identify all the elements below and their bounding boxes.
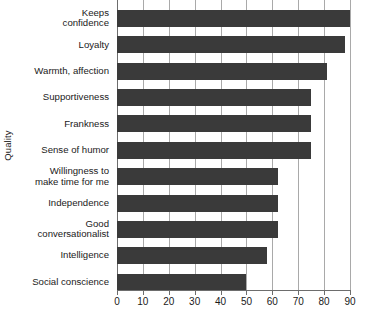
bar: [117, 10, 350, 27]
bar: [117, 274, 246, 291]
bar: [117, 221, 278, 238]
x-tick-mark-30: [195, 290, 196, 295]
x-tick-mark-0: [117, 290, 118, 295]
bar: [117, 247, 267, 264]
category-label: Loyalty: [14, 40, 109, 51]
category-label-line: Independence: [48, 198, 109, 209]
category-label-line: Sense of humor: [41, 145, 109, 156]
x-tick-mark-70: [298, 290, 299, 295]
gridline-90: [350, 0, 351, 290]
bar: [117, 36, 345, 53]
category-label-column: KeepsconfidenceLoyaltyWarmth, affectionS…: [14, 0, 113, 290]
x-tick-mark-60: [272, 290, 273, 295]
category-label: Social conscience: [14, 277, 109, 288]
category-label-line: make time for me: [35, 177, 109, 188]
category-label-line: Loyalty: [79, 40, 109, 51]
category-label-line: conversationalist: [38, 229, 109, 240]
category-label-line: confidence: [63, 18, 109, 29]
category-label-line: Supportiveness: [43, 92, 109, 103]
category-label-line: Social conscience: [32, 277, 109, 288]
bar: [117, 89, 311, 106]
category-label: Independence: [14, 198, 109, 209]
category-label: Intelligence: [14, 250, 109, 261]
category-label: Keepsconfidence: [14, 8, 109, 29]
y-axis-title-text: Quality: [2, 130, 13, 160]
horizontal-bar-chart: Quality KeepsconfidenceLoyaltyWarmth, af…: [0, 0, 366, 329]
category-label: Sense of humor: [14, 145, 109, 156]
bar: [117, 115, 311, 132]
y-axis-title: Quality: [0, 0, 14, 290]
category-label-line: Frankness: [64, 119, 109, 130]
x-tick-mark-50: [246, 290, 247, 295]
category-label-line: Intelligence: [60, 250, 109, 261]
category-label-line: Warmth, affection: [34, 66, 109, 77]
plot-area: [117, 0, 350, 290]
category-label: Willingness tomake time for me: [14, 166, 109, 187]
bar: [117, 168, 278, 185]
x-tick-mark-20: [169, 290, 170, 295]
category-label: Frankness: [14, 119, 109, 130]
x-tick-mark-90: [350, 290, 351, 295]
x-axis-ticks: 0102030405060708090: [117, 290, 350, 312]
x-tick-label-90: 90: [335, 296, 365, 307]
x-tick-mark-40: [221, 290, 222, 295]
category-label: Supportiveness: [14, 92, 109, 103]
bar: [117, 195, 278, 212]
category-label: Warmth, affection: [14, 66, 109, 77]
bar: [117, 63, 327, 80]
category-label: Goodconversationalist: [14, 219, 109, 240]
bar: [117, 142, 311, 159]
x-tick-mark-10: [143, 290, 144, 295]
x-tick-mark-80: [324, 290, 325, 295]
